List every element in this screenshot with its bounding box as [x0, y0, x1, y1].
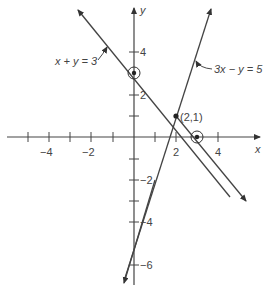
leader-arrow-2 [196, 61, 212, 69]
intersection-point [173, 113, 178, 118]
equation-label-1: x + y = 3 [54, 55, 98, 67]
line-x-plus-y-eq-3-tail [176, 116, 246, 201]
equation-label-2: 3x − y = 5 [214, 63, 263, 75]
x-intercept-dot [195, 135, 199, 139]
y-intercept-dot [132, 71, 136, 75]
x-tick-label: −4 [40, 146, 53, 158]
line-x-plus-y-eq-3 [78, 10, 230, 197]
y-tick-label: −2 [140, 174, 153, 186]
graph: −4 −2 2 4 4 2 −2 −4 −6 y x (2,1) x + y =… [0, 0, 274, 290]
leader-arrow-1 [98, 47, 107, 60]
y-tick-label: 4 [140, 46, 146, 58]
x-tick-label: 2 [173, 146, 179, 158]
x-axis-label: x [254, 143, 261, 155]
intersection-label: (2,1) [180, 111, 203, 123]
x-tick-label: −2 [82, 146, 95, 158]
x-tick-label: 4 [215, 146, 221, 158]
y-axis-label: y [139, 4, 147, 16]
y-tick-label: −6 [140, 259, 153, 271]
